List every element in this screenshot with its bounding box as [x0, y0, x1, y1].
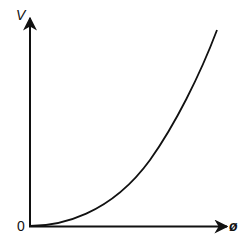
- origin-label: 0: [17, 219, 25, 233]
- y-axis-label: V: [16, 8, 25, 22]
- curve-v-vs-phi: [30, 30, 217, 226]
- chart-canvas: [0, 0, 249, 243]
- x-axis-label: ø: [229, 219, 238, 233]
